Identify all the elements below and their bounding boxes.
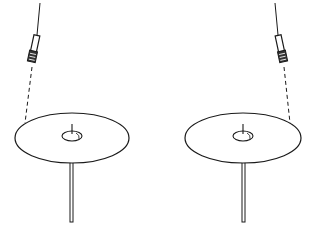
plug-right-icon (274, 34, 287, 62)
diagram-canvas (0, 0, 315, 228)
cymbal-pad-right-assembly (185, 3, 301, 222)
plug-left-icon (27, 34, 40, 62)
cymbal-diagram (0, 0, 315, 228)
cable-right (275, 3, 278, 35)
dashed-link-right (284, 67, 290, 123)
stand-right (242, 162, 245, 222)
cable-left (37, 3, 40, 35)
cymbal-pad-left-assembly (15, 3, 129, 222)
stand-left (70, 162, 73, 222)
dashed-link-left (25, 67, 32, 123)
